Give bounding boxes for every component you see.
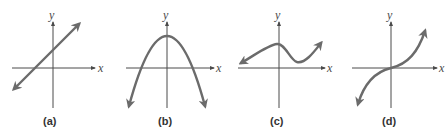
y-axis-label: y <box>386 8 393 22</box>
panel-label-d: (d) <box>382 115 396 127</box>
panel-label-c: (c) <box>270 115 284 127</box>
panel-label-a: (a) <box>43 115 57 127</box>
panel-label-b: (b) <box>158 115 172 127</box>
figure-four-graphs: x y (a) x y (b) x y (c) x y (d) <box>0 0 445 133</box>
x-axis-label: x <box>326 61 333 75</box>
x-axis-label: x <box>97 61 104 75</box>
y-axis-label: y <box>48 8 55 22</box>
panel-d: x y (d) <box>352 8 445 127</box>
wave-curve <box>241 43 321 63</box>
y-axis-label: y <box>274 8 281 22</box>
y-axis-label: y <box>162 8 169 22</box>
x-axis-label: x <box>438 61 445 75</box>
line-curve <box>14 24 79 89</box>
panel-b: x y (b) <box>126 8 222 127</box>
x-axis-label: x <box>215 61 222 75</box>
panel-a: x y (a) <box>12 8 104 127</box>
panel-c: x y (c) <box>238 8 333 127</box>
